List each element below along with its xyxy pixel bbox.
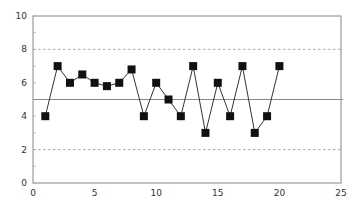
y-tick-label: 6 [21, 78, 27, 88]
x-tick-label: 15 [212, 188, 223, 198]
data-point-marker [226, 112, 234, 120]
x-tick-label: 10 [150, 188, 162, 198]
data-point-marker [263, 112, 271, 120]
data-point-marker [177, 112, 185, 120]
data-point-marker [238, 62, 246, 70]
y-tick-label: 2 [21, 145, 27, 155]
data-point-marker [165, 96, 173, 104]
data-point-marker [214, 79, 222, 87]
x-tick-label: 25 [335, 188, 346, 198]
y-tick-label: 8 [21, 44, 27, 54]
y-tick-label: 4 [21, 111, 27, 121]
data-point-marker [140, 112, 148, 120]
data-point-marker [152, 79, 160, 87]
y-tick-label: 0 [21, 178, 27, 188]
reference-lines [33, 49, 343, 149]
data-point-marker [128, 65, 136, 73]
control-chart: 0246810 0510152025 [0, 0, 363, 204]
x-tick-label: 20 [274, 188, 286, 198]
data-point-marker [275, 62, 283, 70]
y-tick-label: 10 [16, 11, 28, 21]
data-point-marker [78, 70, 86, 78]
data-point-marker [91, 79, 99, 87]
data-point-marker [66, 79, 74, 87]
data-point-marker [54, 62, 62, 70]
data-point-marker [201, 129, 209, 137]
data-point-marker [189, 62, 197, 70]
data-point-marker [251, 129, 259, 137]
data-point-marker [103, 82, 111, 90]
x-tick-label: 0 [30, 188, 36, 198]
x-axis-tick-labels: 0510152025 [30, 188, 347, 198]
x-tick-label: 5 [92, 188, 98, 198]
data-point-marker [115, 79, 123, 87]
data-point-marker [41, 112, 49, 120]
y-axis-tick-labels: 0246810 [16, 11, 28, 188]
